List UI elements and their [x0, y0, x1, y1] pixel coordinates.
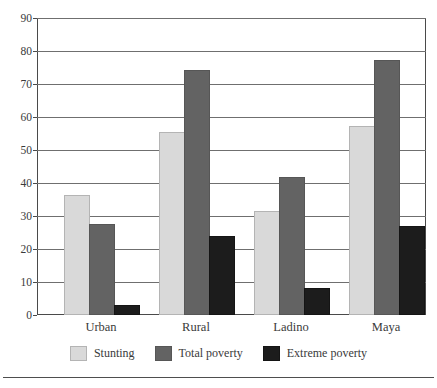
y-tick-label-10: 10 — [2, 277, 32, 289]
bar-rural-extreme-poverty — [209, 236, 235, 315]
right-axis-line — [425, 18, 426, 315]
y-tick-mark-0 — [33, 315, 37, 316]
bottom-divider — [3, 377, 434, 378]
legend-item-extreme-poverty: Extreme poverty — [263, 346, 367, 361]
bar-ladino-stunting — [254, 211, 280, 315]
bar-maya-extreme-poverty — [399, 226, 425, 315]
legend-swatch-total-poverty-icon — [155, 346, 172, 361]
x-axis-label-urban: Urban — [51, 320, 151, 335]
bar-ladino-total-poverty — [279, 177, 305, 315]
legend-swatch-extreme-poverty-icon — [263, 346, 280, 361]
bar-rural-stunting — [159, 132, 185, 315]
y-axis-line — [37, 18, 38, 315]
bar-chart-figure: 90 80 70 60 50 40 30 20 10 0 — [0, 0, 437, 388]
bar-group-maya — [349, 18, 423, 315]
legend-label-extreme-poverty: Extreme poverty — [287, 346, 367, 361]
legend-label-stunting: Stunting — [94, 346, 135, 361]
legend-item-total-poverty: Total poverty — [155, 346, 243, 361]
y-tick-label-70: 70 — [2, 79, 32, 91]
y-tick-label-90: 90 — [2, 13, 32, 25]
y-tick-label-30: 30 — [2, 211, 32, 223]
x-axis-label-maya: Maya — [336, 320, 436, 335]
bar-maya-stunting — [349, 126, 375, 315]
x-axis-label-rural: Rural — [146, 320, 246, 335]
y-tick-label-20: 20 — [2, 244, 32, 256]
bar-ladino-extreme-poverty — [304, 288, 330, 315]
bar-urban-stunting — [64, 195, 90, 315]
y-tick-label-0: 0 — [2, 310, 32, 322]
x-axis-label-ladino: Ladino — [241, 320, 341, 335]
bar-urban-extreme-poverty — [114, 305, 140, 315]
bar-urban-total-poverty — [89, 224, 115, 315]
bar-maya-total-poverty — [374, 60, 400, 315]
y-tick-label-40: 40 — [2, 178, 32, 190]
legend-swatch-stunting-icon — [70, 346, 87, 361]
y-tick-label-60: 60 — [2, 112, 32, 124]
y-tick-label-50: 50 — [2, 145, 32, 157]
bar-group-rural — [159, 18, 233, 315]
bar-group-ladino — [254, 18, 328, 315]
bar-rural-total-poverty — [184, 70, 210, 315]
bar-group-urban — [64, 18, 138, 315]
plot-area — [37, 18, 426, 315]
legend-item-stunting: Stunting — [70, 346, 135, 361]
legend-label-total-poverty: Total poverty — [179, 346, 243, 361]
y-tick-label-80: 80 — [2, 46, 32, 58]
chart-legend: Stunting Total poverty Extreme poverty — [0, 346, 437, 361]
